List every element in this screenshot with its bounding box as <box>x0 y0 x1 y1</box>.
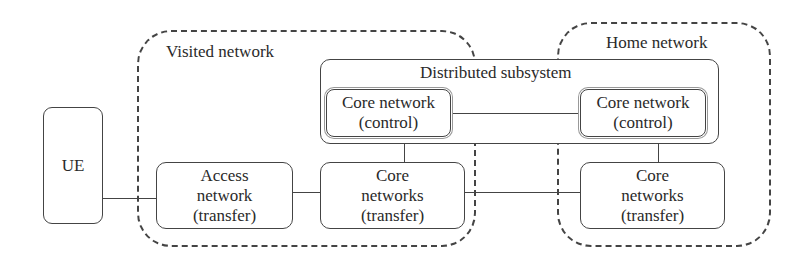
edge-control-control <box>450 113 581 114</box>
edge-ue-access <box>103 198 157 199</box>
edge-subsystem-transfer-visited <box>404 144 405 162</box>
edge-core-transfer-visited-home <box>465 192 581 193</box>
home-network-label: Home network <box>606 33 708 53</box>
visited-network-label: Visited network <box>166 42 274 62</box>
edge-access-core <box>293 192 321 193</box>
core-network-control-home: Core network (control) <box>580 89 706 137</box>
ue-node: UE <box>43 107 103 224</box>
core-networks-transfer-home: Core networks (transfer) <box>580 162 725 229</box>
ue-label: UE <box>62 156 85 176</box>
distributed-subsystem-label: Distributed subsystem <box>420 63 572 83</box>
core-network-control-visited: Core network (control) <box>326 89 451 137</box>
edge-subsystem-transfer-home <box>658 144 659 162</box>
access-network-transfer: Access network (transfer) <box>156 162 293 229</box>
core-networks-transfer-visited: Core networks (transfer) <box>320 162 465 229</box>
